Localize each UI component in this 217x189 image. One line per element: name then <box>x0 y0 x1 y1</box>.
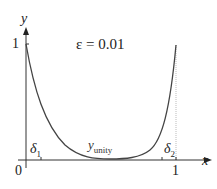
y-axis-arrow-icon <box>23 27 29 35</box>
origin-label: 0 <box>15 164 22 178</box>
yunity-subscript: unity <box>94 145 113 155</box>
delta1-subscript: 1 <box>37 149 42 159</box>
epsilon-label: ε = 0.01 <box>76 37 125 52</box>
delta2-subscript: 2 <box>171 149 176 159</box>
delta1-label: δ1 <box>30 142 41 159</box>
x-tick-label-1: 1 <box>172 164 179 178</box>
plot-canvas <box>0 0 217 189</box>
y-axis-label: y <box>21 12 27 26</box>
delta2-label: δ2 <box>164 142 175 159</box>
y-tick-label-1: 1 <box>12 37 19 51</box>
yunity-label: yunity <box>88 138 112 155</box>
x-axis-label: x <box>202 154 208 168</box>
